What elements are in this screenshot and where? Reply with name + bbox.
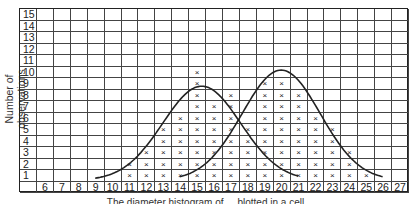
x-axis-caption: The diameter histogram of ... blotted in…: [0, 197, 411, 204]
fitted-curve-1: [95, 86, 298, 178]
fitted-curve-2: [180, 70, 383, 177]
fitted-curves: [0, 0, 411, 204]
